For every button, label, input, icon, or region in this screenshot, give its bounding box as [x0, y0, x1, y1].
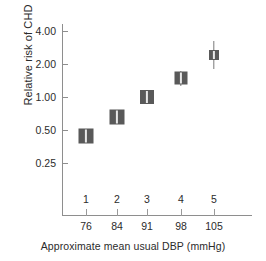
y-tick-label-4.00: 4.00	[0, 25, 56, 37]
x-axis-line	[62, 215, 252, 216]
data-point-group-5	[209, 41, 219, 69]
y-tick-3	[62, 130, 68, 131]
data-point-group-4	[175, 71, 188, 86]
x-tick-2	[147, 209, 148, 216]
x-tick-3	[181, 209, 182, 216]
x-tick-4	[214, 209, 215, 216]
y-tick-label-2.00: 2.00	[0, 58, 56, 70]
y-tick-label-0.50: 0.50	[0, 124, 56, 136]
ci-bar-group-1	[85, 130, 87, 143]
y-tick-label-0.25: 0.25	[0, 157, 56, 169]
data-point-group-1	[79, 129, 94, 144]
data-point-group-2	[110, 110, 125, 125]
x-tick-0	[86, 209, 87, 216]
x-tick-label-105: 105	[191, 220, 237, 232]
data-point-group-3	[140, 90, 154, 104]
ci-bar-group-3	[146, 91, 148, 103]
y-axis-line	[62, 24, 63, 216]
ci-bar-group-4	[180, 73, 182, 84]
y-tick-label-1.00: 1.00	[0, 91, 56, 103]
y-tick-1	[62, 64, 68, 65]
x-tick-1	[117, 209, 118, 216]
ci-bar-group-2	[116, 111, 118, 124]
x-group-label-5: 5	[194, 193, 234, 205]
ci-bar-group-5	[213, 51, 215, 59]
y-tick-2	[62, 97, 68, 98]
y-tick-4	[62, 163, 68, 164]
chd-dbp-relative-risk-chart: Relative risk of CHD 4.002.001.000.500.2…	[0, 0, 266, 261]
x-axis-title: Approximate mean usual DBP (mmHg)	[0, 240, 266, 252]
y-tick-0	[62, 31, 68, 32]
